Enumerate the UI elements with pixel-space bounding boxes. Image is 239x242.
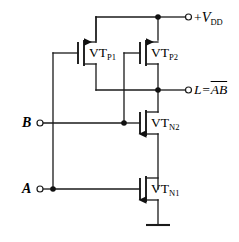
junction-dot-b: [121, 120, 127, 126]
pmos-arrow-p2: [146, 38, 154, 45]
junction-dot-output: [155, 87, 161, 93]
transistor-vtp2: [124, 38, 158, 90]
output-net: [96, 90, 186, 112]
terminal-input-a[interactable]: [37, 186, 43, 192]
schematic-svg: [0, 0, 239, 242]
junction-dot-a: [50, 186, 56, 192]
terminal-input-b[interactable]: [37, 120, 43, 126]
circuit-diagram-page: +VDD VTP1 VTP2 L=AB B VTN2 A VTN1: [0, 0, 239, 242]
pmos-arrow-p1: [84, 38, 92, 45]
terminal-vdd[interactable]: [186, 14, 192, 20]
transistor-vtn1: [53, 176, 158, 225]
vdd-rail: [96, 17, 186, 40]
transistor-vtn2: [124, 110, 158, 189]
transistor-vtp1: [53, 17, 96, 90]
junction-dot-vdd: [155, 14, 161, 20]
terminal-output[interactable]: [186, 87, 192, 93]
